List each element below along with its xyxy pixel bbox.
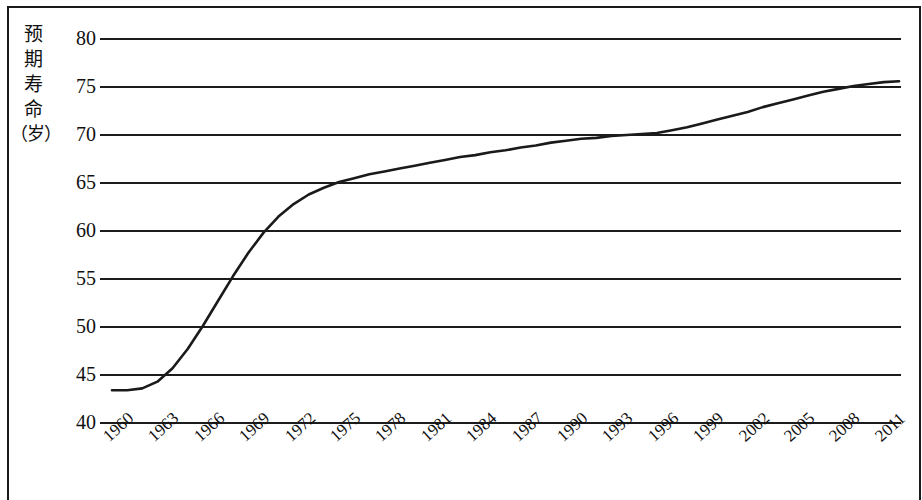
y-tick-label-65: 65 — [44, 172, 96, 192]
gridline-55 — [100, 278, 901, 280]
series-line-path — [112, 81, 899, 390]
plot-area — [100, 30, 901, 430]
y-tick-label-75: 75 — [44, 76, 96, 96]
gridline-50 — [100, 326, 901, 328]
y-tick-label-80: 80 — [44, 28, 96, 48]
y-tick-label-55: 55 — [44, 268, 96, 288]
chart-figure: 预期寿命（岁） 807570656055504540 1960196319661… — [0, 0, 922, 500]
x-axis-tick-labels: 1960196319661969197219751978198119841987… — [0, 432, 922, 492]
y-axis-tick-labels: 807570656055504540 — [40, 30, 96, 430]
y-tick-label-45: 45 — [44, 364, 96, 384]
gridline-60 — [100, 230, 901, 232]
y-tick-label-70: 70 — [44, 124, 96, 144]
y-tick-label-40: 40 — [44, 412, 96, 432]
gridline-75 — [100, 86, 901, 88]
gridline-70 — [100, 134, 901, 136]
y-tick-label-50: 50 — [44, 316, 96, 336]
gridline-45 — [100, 374, 901, 376]
page-frame-top-border — [7, 6, 921, 8]
y-tick-label-60: 60 — [44, 220, 96, 240]
page-frame-left-border — [7, 6, 9, 500]
gridline-65 — [100, 182, 901, 184]
gridline-80 — [100, 38, 901, 40]
page-frame-right-border — [919, 6, 921, 500]
